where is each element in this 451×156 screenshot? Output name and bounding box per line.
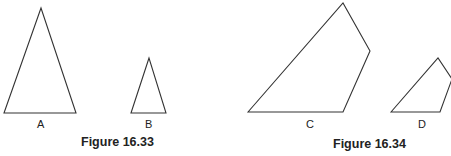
quadrilateral-d (391, 58, 451, 112)
figures-canvas (0, 0, 451, 156)
caption-figure-16-34: Figure 16.34 (333, 137, 406, 151)
caption-figure-16-33: Figure 16.33 (81, 135, 154, 149)
triangle-a (4, 8, 76, 113)
label-a: A (37, 118, 44, 130)
label-c: C (306, 118, 314, 130)
triangle-b (131, 58, 166, 113)
quadrilateral-c (248, 3, 370, 112)
label-d: D (418, 118, 426, 130)
label-b: B (145, 118, 152, 130)
